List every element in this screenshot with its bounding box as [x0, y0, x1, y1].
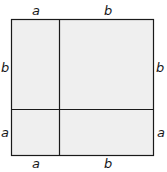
label-right-b: b: [156, 60, 164, 75]
label-top-b: b: [104, 3, 112, 18]
label-bottom-a: a: [32, 156, 40, 171]
label-top-a: a: [32, 3, 40, 18]
outer-square: [12, 20, 154, 156]
label-left-b: b: [1, 60, 9, 75]
label-left-a: a: [1, 125, 9, 140]
square-diagram: a b b a b a a b: [0, 0, 167, 172]
label-right-a: a: [157, 125, 165, 140]
label-bottom-b: b: [104, 156, 112, 171]
